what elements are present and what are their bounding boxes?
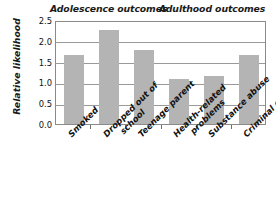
- gridline: [56, 84, 265, 85]
- bar: [64, 55, 84, 124]
- y-axis-tick-label: 1.5: [26, 58, 52, 68]
- gridline: [56, 42, 265, 43]
- bar: [99, 30, 119, 124]
- y-axis-tick-label: 0.0: [26, 120, 52, 130]
- y-axis-tick-label: 1.0: [26, 78, 52, 88]
- bar-chart-figure: Adolescence outcomes Adulthood outcomes …: [0, 0, 276, 206]
- group-header-adolescence: Adolescence outcomes: [50, 3, 167, 14]
- x-axis-tick-mark: [231, 125, 232, 129]
- y-axis-tick-label: 2.0: [26, 37, 52, 47]
- x-axis-tick-mark: [161, 125, 162, 129]
- y-axis-title: Relative likelihood: [11, 12, 22, 122]
- y-axis-tick-label: 2.5: [26, 16, 52, 26]
- group-header-adulthood: Adulthood outcomes: [159, 3, 265, 14]
- gridline: [56, 63, 265, 64]
- y-axis-tick-label: 0.5: [26, 99, 52, 109]
- x-axis-tick-mark: [90, 125, 91, 129]
